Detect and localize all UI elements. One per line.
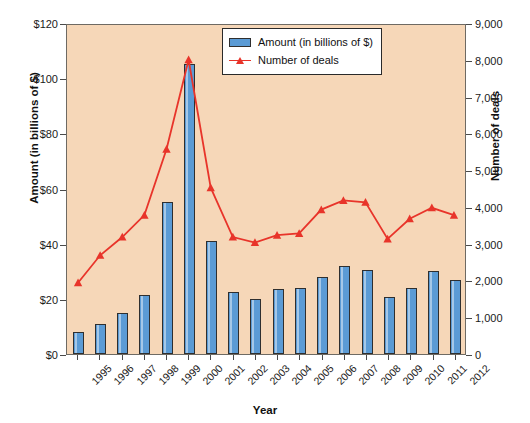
y-tick-right-2000: 2,000 [475, 275, 530, 287]
x-tick-label-2004: 2004 [289, 362, 314, 387]
bar-1998 [139, 295, 150, 354]
legend-item-amount: Amount (in billions of $) [229, 33, 373, 51]
x-tick-mark-2012 [455, 355, 456, 360]
y-tick-right-3000: 3,000 [475, 239, 530, 251]
x-tick-mark-2011 [433, 355, 434, 360]
legend-label-amount: Amount (in billions of $) [258, 36, 373, 48]
x-tick-mark-2005 [299, 355, 300, 360]
x-tick-label-2006: 2006 [333, 362, 358, 387]
x-tick-label-2012: 2012 [467, 362, 492, 387]
y-tick-left-80: $80 [0, 128, 58, 140]
x-tick-mark-2008 [366, 355, 367, 360]
x-tick-label-2001: 2001 [222, 362, 247, 387]
x-tick-label-2008: 2008 [378, 362, 403, 387]
bar-1999 [162, 202, 173, 354]
x-tick-mark-1998 [144, 355, 145, 360]
x-tick-mark-2001 [210, 355, 211, 360]
x-tick-mark-2003 [255, 355, 256, 360]
y-tick-left-120: $120 [0, 18, 58, 30]
y-tick-right-mark [466, 61, 472, 62]
x-tick-label-1995: 1995 [89, 362, 114, 387]
bar-swatch-icon [229, 38, 251, 47]
x-tick-mark-2009 [388, 355, 389, 360]
y-tick-right-mark [466, 281, 472, 282]
x-tick-mark-2010 [410, 355, 411, 360]
line-marker-icon [229, 56, 251, 65]
bar-2004 [273, 289, 284, 354]
x-tick-mark-2000 [188, 355, 189, 360]
legend-label-deals: Number of deals [258, 54, 339, 66]
x-tick-mark-2002 [233, 355, 234, 360]
y-tick-right-mark [466, 134, 472, 135]
y-tick-right-9000: 9,000 [475, 18, 530, 30]
x-tick-label-2010: 2010 [422, 362, 447, 387]
bar-2002 [228, 292, 239, 354]
x-tick-mark-2006 [322, 355, 323, 360]
bar-2003 [250, 299, 261, 354]
y-tick-left-mark [60, 355, 66, 356]
bar-1995 [73, 332, 84, 354]
bar-2007 [339, 266, 350, 354]
x-tick-label-2009: 2009 [400, 362, 425, 387]
y-tick-right-mark [466, 245, 472, 246]
x-tick-label-2011: 2011 [444, 362, 468, 386]
x-tick-label-2005: 2005 [311, 362, 336, 387]
x-tick-mark-1996 [99, 355, 100, 360]
y-tick-right-0: 0 [475, 349, 530, 361]
bar-2010 [406, 288, 417, 354]
bar-2001 [206, 241, 217, 354]
y-tick-left-60: $60 [0, 184, 58, 196]
x-tick-label-1997: 1997 [133, 362, 158, 387]
x-tick-label-2000: 2000 [200, 362, 225, 387]
x-axis-title: Year [0, 404, 530, 416]
x-tick-label-2003: 2003 [267, 362, 292, 387]
y-tick-right-5000: 5,000 [475, 165, 530, 177]
bar-2011 [428, 271, 439, 354]
bar-2005 [295, 288, 306, 354]
y-tick-left-20: $20 [0, 294, 58, 306]
y-tick-right-mark [466, 98, 472, 99]
chart-legend: Amount (in billions of $) Number of deal… [222, 28, 382, 75]
x-tick-label-2002: 2002 [244, 362, 269, 387]
y-tick-right-6000: 6,000 [475, 128, 530, 140]
bar-1997 [117, 313, 128, 354]
y-tick-left-40: $40 [0, 239, 58, 251]
x-tick-mark-2007 [344, 355, 345, 360]
y-tick-right-7000: 7,000 [475, 92, 530, 104]
x-tick-mark-1997 [122, 355, 123, 360]
bar-2008 [362, 270, 373, 354]
y-tick-right-1000: 1,000 [475, 312, 530, 324]
x-tick-label-1996: 1996 [111, 362, 136, 387]
y-tick-left-0: $0 [0, 349, 58, 361]
x-tick-label-2007: 2007 [356, 362, 381, 387]
y-tick-right-mark [466, 208, 472, 209]
y-tick-right-mark [466, 318, 472, 319]
y-tick-right-mark [466, 171, 472, 172]
y-tick-left-100: $100 [0, 73, 58, 85]
bar-2006 [317, 277, 328, 354]
y-tick-right-8000: 8,000 [475, 55, 530, 67]
bar-2012 [450, 280, 461, 354]
y-tick-right-4000: 4,000 [475, 202, 530, 214]
x-tick-label-1999: 1999 [178, 362, 203, 387]
bar-2009 [384, 297, 395, 354]
bar-1996 [95, 324, 106, 354]
y-tick-right-mark [466, 24, 472, 25]
x-tick-label-1998: 1998 [156, 362, 181, 387]
legend-item-deals: Number of deals [229, 51, 373, 69]
x-tick-mark-2004 [277, 355, 278, 360]
bar-2000 [184, 64, 195, 354]
x-tick-mark-1995 [77, 355, 78, 360]
x-tick-mark-1999 [166, 355, 167, 360]
y-tick-right-mark [466, 355, 472, 356]
chart-container: Amount (in billions of $) Number of deal… [0, 0, 530, 423]
